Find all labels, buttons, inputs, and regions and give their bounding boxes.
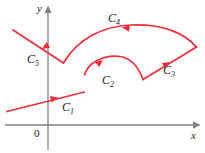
curve-label-c1-subscript: 1 xyxy=(70,107,74,116)
curve-label-c4: C4 xyxy=(108,12,120,24)
curve-c4-path xyxy=(64,25,197,63)
curve-label-c2-base: C xyxy=(102,73,110,87)
x-axis-arrowhead xyxy=(193,121,201,129)
curve-label-c3-base: C xyxy=(163,63,171,77)
curve-label-c2-subscript: 2 xyxy=(110,80,114,89)
curve-label-c5-subscript: 5 xyxy=(35,59,39,68)
curve-label-c4-subscript: 4 xyxy=(116,18,120,27)
curve-label-c3-subscript: 3 xyxy=(171,70,175,79)
direction-arrowheads xyxy=(40,24,172,102)
curve-label-c5: C5 xyxy=(27,53,39,65)
x-axis-label: x xyxy=(191,130,196,141)
curve-label-c2: C2 xyxy=(102,74,114,86)
curve-label-c1-base: C xyxy=(62,100,70,114)
curve-label-c5-base: C xyxy=(27,52,35,66)
origin-label: 0 xyxy=(34,128,40,139)
y-axis-label: y xyxy=(37,3,42,14)
y-axis-arrowhead xyxy=(44,6,51,14)
curve-diagram: y x 0 C1 C2 C3 C4 C5 xyxy=(0,0,205,153)
curve-label-c3: C3 xyxy=(163,64,175,76)
curve-label-c4-base: C xyxy=(108,11,116,25)
curve-label-c1: C1 xyxy=(62,101,74,113)
